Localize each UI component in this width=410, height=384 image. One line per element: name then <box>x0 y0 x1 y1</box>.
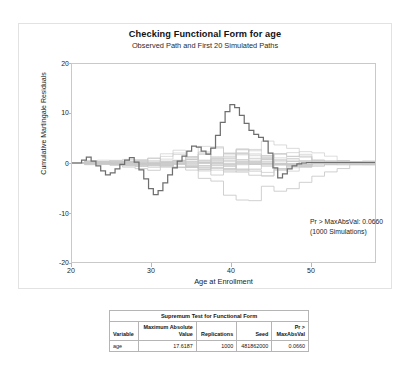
pvalue-line: Pr > MaxAbsVal: 0.0660 <box>310 217 383 227</box>
x-tick-label-20: 20 <box>56 267 86 274</box>
table-caption: Supremum Test for Functional Form <box>110 311 309 322</box>
col-header-max-abs-value: Maximum Absolute Value <box>138 322 196 341</box>
graph-panel: Checking Functional Form for age Observe… <box>18 23 392 289</box>
pvalue-annotation: Pr > MaxAbsVal: 0.0660 (1000 Simulations… <box>310 217 383 237</box>
col-header-max-abs-value-line2: Value <box>179 331 193 337</box>
col-header-pr-maxabsval: Pr > MaxAbsVal <box>272 322 309 341</box>
col-header-pr-line1: Pr > <box>295 324 305 330</box>
page-title: Checking Functional Form for age <box>19 29 391 39</box>
table-header-row: Variable Maximum Absolute Value Replicat… <box>110 322 309 341</box>
supremum-test-table-wrap: Supremum Test for Functional Form Variab… <box>109 310 309 352</box>
x-tick-label-40: 40 <box>216 267 246 274</box>
col-header-replications: Replications <box>196 322 236 341</box>
x-tick-label-50: 50 <box>296 267 326 274</box>
table-row: age 17.6187 1000 481862000 0.0660 <box>110 340 309 351</box>
y-tick-label-20: 20 <box>43 60 69 67</box>
simulations-line: (1000 Simulations) <box>310 227 383 237</box>
cell-max-abs-value: 17.6187 <box>138 340 196 351</box>
col-header-max-abs-value-line1: Maximum Absolute <box>144 324 193 330</box>
cell-pr-maxabsval: 0.0660 <box>272 340 309 351</box>
simulated-paths-group <box>72 141 375 201</box>
col-header-variable: Variable <box>110 322 139 341</box>
x-tick-label-30: 30 <box>136 267 166 274</box>
y-tick-label-0: 0 <box>43 160 69 167</box>
sas-graph-output: Checking Functional Form for age Observe… <box>0 0 410 384</box>
y-tick-label-neg20: -20 <box>43 259 69 266</box>
col-header-pr-line2: MaxAbsVal <box>277 331 305 337</box>
supremum-test-table: Supremum Test for Functional Form Variab… <box>109 310 309 352</box>
y-tick-label-neg10: -10 <box>43 210 69 217</box>
y-tick-label-10: 10 <box>43 109 69 116</box>
col-header-seed: Seed <box>237 322 272 341</box>
y-axis-label: Cumulative Martingale Residuals <box>40 44 47 204</box>
table-caption-row: Supremum Test for Functional Form <box>110 311 309 322</box>
x-axis-label: Age at Enrollment <box>71 277 376 286</box>
page-subtitle: Observed Path and First 20 Simulated Pat… <box>19 41 391 50</box>
cell-variable: age <box>110 340 139 351</box>
cell-replications: 1000 <box>196 340 236 351</box>
cell-seed: 481862000 <box>237 340 272 351</box>
